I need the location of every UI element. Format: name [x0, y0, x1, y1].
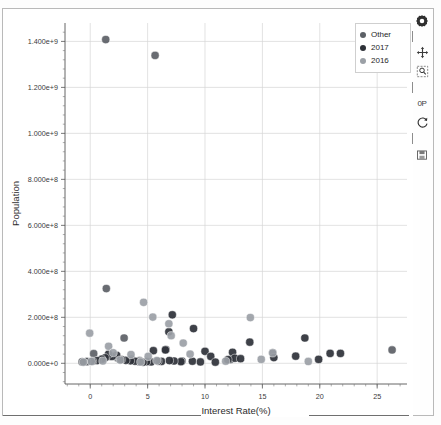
scatter-point[interactable] [326, 349, 334, 357]
scatter-point[interactable] [161, 346, 169, 354]
scatter-point[interactable] [301, 334, 309, 342]
legend-swatch-2017 [360, 45, 366, 51]
scatter-point[interactable] [336, 349, 344, 357]
y-tick-label: 8.000e+8 [28, 175, 58, 184]
scatter-point[interactable] [140, 298, 148, 306]
y-tick-label: 1.000e+9 [28, 129, 58, 138]
scatter-point[interactable] [86, 329, 94, 337]
y-tick-label: 4.000e+8 [28, 267, 58, 276]
zero-p-label: 0P [418, 99, 427, 108]
scatter-point[interactable] [109, 349, 117, 357]
scatter-point[interactable] [144, 352, 152, 360]
scatter-point[interactable] [222, 357, 230, 365]
x-tick-label: 15 [258, 392, 266, 401]
toolbar-separator-2 [412, 82, 413, 93]
scatter-point[interactable] [137, 358, 145, 366]
scatter-point[interactable] [168, 311, 176, 319]
scatter-point[interactable] [79, 358, 87, 366]
footer-rule-right [309, 415, 409, 416]
legend-item-2017[interactable]: 2017 [360, 42, 405, 54]
y-tick-label: 1.200e+9 [28, 83, 58, 92]
scatter-point[interactable] [292, 352, 300, 360]
y-tick-label: 6.000e+8 [28, 221, 58, 230]
y-tick-label: 0.000e+0 [28, 359, 58, 368]
scatter-point[interactable] [151, 51, 159, 59]
legend-item-other[interactable]: Other [360, 29, 405, 41]
scatter-point[interactable] [102, 284, 110, 292]
scatter-plot-area[interactable]: 0.000e+02.000e+84.000e+86.000e+88.000e+8… [3, 9, 413, 417]
scatter-point[interactable] [246, 313, 254, 321]
scatter-point[interactable] [196, 358, 204, 366]
legend-label-2016: 2016 [371, 56, 389, 66]
scatter-point[interactable] [211, 358, 219, 366]
scatter-point[interactable] [236, 355, 244, 363]
zero-p-icon[interactable]: 0P [412, 94, 432, 113]
scatter-point[interactable] [99, 357, 107, 365]
chart-window: 0.000e+02.000e+84.000e+86.000e+88.000e+8… [2, 8, 434, 416]
legend-label-other: Other [371, 30, 391, 40]
scatter-point[interactable] [165, 356, 173, 364]
scatter-point[interactable] [269, 349, 277, 357]
x-axis-title: Interest Rate(%) [201, 405, 270, 416]
scatter-point[interactable] [116, 356, 124, 364]
plot-svg[interactable]: 0.000e+02.000e+84.000e+86.000e+88.000e+8… [3, 9, 413, 417]
scatter-point[interactable] [149, 313, 157, 321]
x-tick-label: 10 [201, 392, 209, 401]
footer-rule-left [3, 415, 201, 416]
scatter-point[interactable] [102, 35, 110, 43]
move-pan-icon[interactable] [412, 43, 432, 62]
scatter-point[interactable] [388, 346, 396, 354]
chart-legend[interactable]: Other 2017 2016 [355, 23, 411, 73]
x-tick-label: 0 [88, 392, 92, 401]
scatter-point[interactable] [189, 324, 197, 332]
y-tick-label: 1.400e+9 [28, 37, 58, 46]
scatter-point[interactable] [186, 350, 194, 358]
scatter-point[interactable] [165, 320, 173, 328]
toolbar-separator-1 [412, 31, 413, 42]
scatter-point[interactable] [87, 357, 95, 365]
scatter-point[interactable] [153, 356, 161, 364]
save-image-icon[interactable] [412, 145, 432, 164]
x-tick-label: 25 [373, 392, 381, 401]
settings-gear-icon[interactable] [412, 11, 432, 30]
scatter-point[interactable] [315, 355, 323, 363]
scatter-point[interactable] [167, 332, 175, 340]
scatter-point[interactable] [120, 334, 128, 342]
legend-swatch-2016 [360, 58, 366, 64]
scatter-point[interactable] [179, 339, 187, 347]
x-tick-label: 5 [146, 392, 150, 401]
y-tick-label: 2.000e+8 [28, 313, 58, 322]
zoom-select-icon[interactable] [412, 62, 432, 81]
legend-swatch-other [360, 32, 366, 38]
chart-toolbar[interactable]: 0P [411, 11, 433, 164]
legend-label-2017: 2017 [371, 43, 389, 53]
toolbar-separator-3 [412, 133, 413, 144]
scatter-point[interactable] [257, 355, 265, 363]
scatter-point[interactable] [304, 357, 312, 365]
refresh-reset-icon[interactable] [412, 113, 432, 132]
legend-item-2016[interactable]: 2016 [360, 55, 405, 67]
scatter-point[interactable] [127, 350, 135, 358]
y-axis-title: Population [10, 181, 21, 226]
x-tick-label: 20 [316, 392, 324, 401]
scatter-point[interactable] [246, 338, 254, 346]
